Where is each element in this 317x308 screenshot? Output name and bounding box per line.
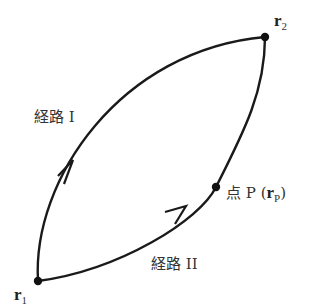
point-r1-dot (34, 277, 42, 285)
point-r2-dot (261, 33, 269, 41)
path-2-label: 経路 II (151, 257, 198, 272)
path-1-label: 経路 I (34, 110, 75, 125)
point-r1-label: r1 (14, 286, 27, 303)
point-r2-label: r2 (274, 12, 287, 29)
point-p-label: 点 P (rP) (226, 184, 286, 201)
point-p-dot (212, 183, 220, 191)
